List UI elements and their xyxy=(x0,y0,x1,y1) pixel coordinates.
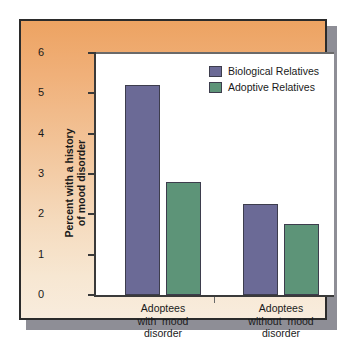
legend-swatch-adoptive-icon xyxy=(209,82,222,93)
bar-adoptive xyxy=(284,224,319,295)
y-axis-tick xyxy=(88,133,95,135)
bar-biological xyxy=(243,204,278,295)
figure-frame: 0123456 Percent with a history of mood d… xyxy=(19,19,327,320)
legend-label-adoptive: Adoptive Relatives xyxy=(228,82,315,93)
x-axis-category-label-line: disorder xyxy=(103,327,223,340)
y-axis-tick-label: 6 xyxy=(24,47,44,58)
y-axis-tick xyxy=(88,213,95,215)
legend-item-biological: Biological Relatives xyxy=(209,64,319,78)
chart-figure: 0123456 Percent with a history of mood d… xyxy=(0,0,345,344)
bar-adoptive xyxy=(166,182,201,295)
y-axis-tick-label: 2 xyxy=(24,208,44,219)
x-axis-category-label-line: disorder xyxy=(221,327,341,340)
y-axis-tick-label: 4 xyxy=(24,128,44,139)
x-axis-category-label: Adopteeswith mooddisorder xyxy=(103,302,223,340)
plot-top-rule xyxy=(94,52,334,53)
y-axis-tick-label: 3 xyxy=(24,168,44,179)
y-axis-tick-label: 5 xyxy=(24,87,44,98)
y-axis-title-line-1: Percent with a history xyxy=(63,128,75,237)
y-axis-tick xyxy=(88,294,95,296)
x-axis-category-label-line: Adoptees xyxy=(221,302,341,315)
x-axis-category-label-line: without mood xyxy=(221,315,341,328)
x-axis-category-label-line: with mood xyxy=(103,315,223,328)
y-axis-tick xyxy=(88,92,95,94)
legend-swatch-biological-icon xyxy=(209,66,222,77)
y-axis-tick-label: 0 xyxy=(24,289,44,300)
y-axis-tick xyxy=(88,52,95,54)
y-axis-tick-label: 1 xyxy=(24,249,44,260)
legend-item-adoptive: Adoptive Relatives xyxy=(209,80,319,94)
chart-legend: Biological Relatives Adoptive Relatives xyxy=(209,64,319,96)
y-axis-title: Percent with a history of mood disorder xyxy=(63,93,87,273)
y-axis-title-line-2: of mood disorder xyxy=(75,140,87,226)
y-axis-tick xyxy=(88,254,95,256)
x-axis-category-label: Adopteeswithout mooddisorder xyxy=(221,302,341,340)
y-axis-tick xyxy=(88,173,95,175)
bar-biological xyxy=(125,85,160,295)
x-axis-category-label-line: Adoptees xyxy=(103,302,223,315)
legend-label-biological: Biological Relatives xyxy=(228,66,319,77)
